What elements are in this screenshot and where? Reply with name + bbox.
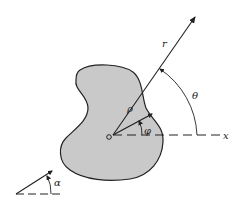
polar-coordinates-diagram: r θ ρ φ x α [0,0,240,207]
alpha-label: α [54,177,61,188]
phi-label: φ [144,125,151,136]
theta-label: θ [192,90,198,101]
shaded-region [60,65,163,180]
alpha-direction-arrow [16,171,52,194]
alpha-angle-arc [47,176,51,194]
theta-angle-arc [160,69,197,135]
r-label: r [162,38,168,49]
rho-label: ρ [126,103,133,114]
x-axis-label: x [223,130,229,141]
